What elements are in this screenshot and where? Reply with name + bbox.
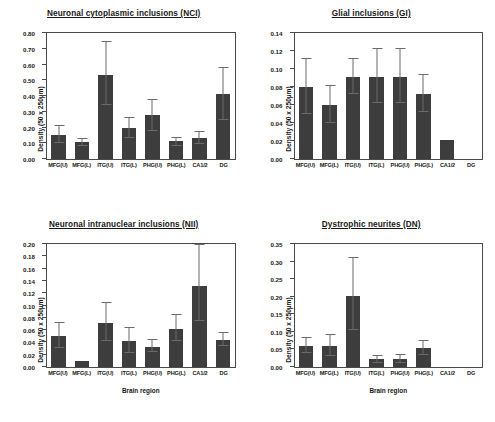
x-tick-label: MFG(U) [294,162,318,168]
bar [98,75,113,159]
bar [192,286,207,367]
x-tick-label: MFG(L) [317,162,341,168]
bar-group [435,33,458,159]
error-bar [129,327,130,353]
error-bar [129,117,130,138]
plot-frame-nci: 0.000.100.200.300.400.500.600.700.80 [46,32,236,160]
y-tick-label: 0.02 [270,138,282,145]
bar [299,346,314,367]
y-tick-label: 0.05 [270,346,282,353]
error-bar [306,337,307,353]
y-tick-label: 0.02 [23,351,35,358]
panel-title-dn: Dystrophic neurites (DN) [248,220,495,229]
bar [122,128,137,159]
x-tick-label: PHG(L) [412,370,436,376]
panel-title-nci: Neuronal cytoplasmic inclusions (NCI) [0,9,248,18]
bar-group [365,33,388,159]
bar-group [211,33,234,159]
x-tick-label: ITG(L) [365,162,389,168]
y-axis-label-nci: Density (50 x 250µm) [37,86,44,151]
y-tick-label: 0.12 [270,48,282,55]
error-bar [399,48,400,103]
bar [416,348,431,367]
y-tick-label: 0.60 [23,61,35,68]
error-bar [105,41,106,105]
bar-group [459,33,482,159]
error-bar [376,355,377,364]
x-tick-label: ITG(U) [341,162,365,168]
bar-group [141,244,164,367]
bar-group [94,33,117,159]
bar [51,336,66,367]
error-bar [82,138,83,146]
bar [322,105,337,159]
bar [216,340,231,367]
bar [369,77,384,159]
error-bar [353,58,354,95]
y-tick-label: 0.06 [270,102,282,109]
bar [416,94,431,159]
bar-group [47,33,70,159]
bar-group [70,33,93,159]
y-tick-label: 0.40 [23,93,35,100]
bar-group [412,33,435,159]
bar [75,361,90,367]
bar [346,296,361,367]
bar [122,341,137,367]
error-bar [399,354,400,363]
bar [75,142,90,159]
panel-title-nii: Neuronal intranuclear inclusions (NII) [0,220,248,229]
plot-area-nci: Density (50 x 250µm) 0.000.100.200.300.4… [0,26,244,211]
y-tick-label: 0.30 [23,108,35,115]
bar [440,140,455,159]
figure-four-panel-bar-charts: Neuronal cytoplasmic inclusions (NCI) De… [0,0,495,422]
y-tick-label: 0.18 [23,253,35,260]
x-axis-labels-nci: MFG(U)MFG(L)ITG(U)ITG(L)PHG(U)PHG(L)CA1/… [46,162,236,168]
y-tick-label: 0.14 [23,277,35,284]
y-tick-label: 0.10 [270,66,282,73]
x-tick-label: ITG(U) [341,370,365,376]
x-tick-label: PHG(L) [164,162,188,168]
x-tick-label: ITG(U) [93,370,117,376]
bar-series-gi [295,33,483,159]
y-tick-label: 0.12 [23,290,35,297]
bar [346,77,361,159]
error-bar [306,58,307,115]
panel-nii: Neuronal intranuclear inclusions (NII) D… [0,211,248,422]
x-tick-label: DG [459,162,483,168]
error-bar [329,85,330,123]
error-bar [353,257,354,331]
bar [369,359,384,367]
bar-group [388,244,411,367]
bar-group [365,244,388,367]
bar [322,346,337,367]
x-tick-label: MFG(L) [70,370,94,376]
y-tick-label: 0.20 [23,124,35,131]
error-bar [423,74,424,112]
bar-group [188,33,211,159]
y-tick-label: 0.04 [23,339,35,346]
bar [169,141,184,159]
error-bar [105,302,106,342]
plot-area-nii: Density (50 x 250µm) 0.000.020.040.060.0… [0,237,244,422]
x-tick-label: PHG(U) [388,162,412,168]
y-tick-label: 0.16 [23,265,35,272]
bar [169,329,184,367]
y-tick-label: 0.00 [23,364,35,371]
x-tick-label: DG [212,370,236,376]
bar [393,77,408,159]
y-tick-label: 0.10 [270,328,282,335]
x-axis-labels-nii: MFG(U)MFG(L)ITG(U)ITG(L)PHG(U)PHG(L)CA1/… [46,370,236,376]
bar [51,135,66,159]
bar-group [47,244,70,367]
panel-title-gi: Glial inclusions (GI) [248,9,495,18]
bar-group [318,244,341,367]
bar-group [70,244,93,367]
x-tick-label: CA1/2 [436,370,460,376]
bar-group [295,244,318,367]
bar-series-nii [47,244,235,367]
error-bar [199,244,200,321]
y-tick-label: 0.15 [270,311,282,318]
bar-group [188,244,211,367]
panel-dn: Dystrophic neurites (DN) Density (50 x 2… [248,211,495,422]
